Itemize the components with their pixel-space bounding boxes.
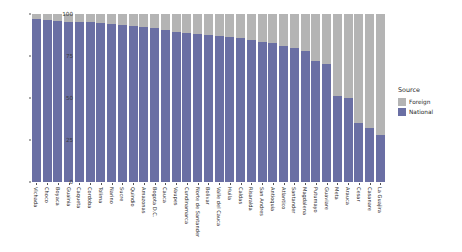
- x-axis-tick-label: Arauca: [345, 187, 351, 205]
- x-axis-tick: Valle del Cauca: [214, 183, 225, 249]
- x-axis-tick-label: Bogota D.C.: [152, 187, 158, 217]
- x-axis-tick-mark: [187, 183, 188, 185]
- x-axis-tick-label: Choco: [44, 187, 50, 203]
- x-axis-tick-mark: [273, 183, 274, 185]
- x-axis-tick-label: Sucre: [119, 187, 125, 201]
- bar-segment-national: [268, 43, 277, 182]
- x-axis-tick: Bogota D.C.: [149, 183, 160, 249]
- x-axis-tick-mark: [144, 183, 145, 185]
- bar-stack: [214, 14, 225, 182]
- bar-segment-national: [311, 61, 320, 182]
- bar-segment-national: [236, 38, 245, 182]
- bar-stack: [354, 14, 365, 182]
- bar-stack: [182, 14, 193, 182]
- x-axis-tick: Caldas: [235, 183, 246, 249]
- y-axis-tick-mark: [29, 14, 31, 15]
- x-axis-tick: San Andres: [257, 183, 268, 249]
- x-axis-tick: Bolivar: [203, 183, 214, 249]
- bar-stack: [235, 14, 246, 182]
- x-axis-tick-mark: [90, 183, 91, 185]
- plot-area: [31, 14, 386, 182]
- x-axis-tick-mark: [294, 183, 295, 185]
- bar-stack: [311, 14, 322, 182]
- x-axis-tick: Putumayo: [311, 183, 322, 249]
- bar-segment-national: [118, 25, 127, 182]
- x-axis-tick-label: Meta: [334, 187, 340, 200]
- bar-segment-foreign: [268, 14, 277, 43]
- legend-swatch-national: [398, 108, 406, 116]
- x-axis-tick-mark: [284, 183, 285, 185]
- x-axis-tick-label: Amazonas: [141, 187, 147, 213]
- bar-segment-national: [290, 48, 299, 182]
- y-axis-tick-mark: [29, 140, 31, 141]
- bar-group: [31, 14, 386, 182]
- x-axis-tick-label: Caldas: [238, 187, 244, 204]
- x-axis-tick-mark: [208, 183, 209, 185]
- bar-segment-national: [344, 98, 353, 182]
- bar-segment-national: [161, 30, 170, 182]
- bar-segment-national: [354, 123, 363, 182]
- x-axis-tick: Caqueta: [74, 183, 85, 249]
- bar-segment-national: [107, 24, 116, 182]
- bar-segment-foreign: [129, 14, 138, 26]
- x-axis-tick: Choco: [42, 183, 53, 249]
- bar-stack: [139, 14, 150, 182]
- x-axis-tick-mark: [219, 183, 220, 185]
- bar-segment-national: [225, 37, 234, 182]
- bar-stack: [332, 14, 343, 182]
- x-axis-labels: VichadaChocoBoyacaGuainiaCaquetaCordobaT…: [31, 183, 386, 249]
- x-axis-tick: Arauca: [343, 183, 354, 249]
- x-axis-tick-label: Huila: [227, 187, 233, 200]
- x-axis-tick: Quindio: [128, 183, 139, 249]
- legend-swatch-foreign: [398, 98, 406, 106]
- bar-segment-foreign: [311, 14, 320, 61]
- bar-segment-foreign: [86, 14, 95, 22]
- bar-segment-foreign: [236, 14, 245, 38]
- x-axis-tick: Boyaca: [53, 183, 64, 249]
- bar-segment-national: [322, 64, 331, 182]
- bar-segment-national: [139, 27, 148, 182]
- bar-stack: [278, 14, 289, 182]
- x-axis-tick-label: Cesar: [356, 187, 362, 202]
- bar-segment-national: [301, 51, 310, 182]
- x-axis-tick: Cauca: [160, 183, 171, 249]
- x-axis-tick-mark: [122, 183, 123, 185]
- legend-item[interactable]: National: [398, 108, 460, 116]
- bar-segment-national: [86, 22, 95, 182]
- bar-segment-foreign: [193, 14, 202, 34]
- legend-item[interactable]: Foreign: [398, 98, 460, 106]
- x-axis-tick-mark: [79, 183, 80, 185]
- bar-segment-foreign: [376, 14, 385, 135]
- bar-segment-national: [258, 42, 267, 182]
- bar-segment-national: [204, 35, 213, 182]
- bar-stack: [171, 14, 182, 182]
- x-axis-tick-mark: [133, 183, 134, 185]
- x-axis-tick: Risaralda: [246, 183, 257, 249]
- bar-segment-national: [365, 128, 374, 182]
- x-axis-tick: Cordoba: [85, 183, 96, 249]
- bar-segment-national: [96, 23, 105, 182]
- x-axis-tick: La Guajira: [375, 183, 386, 249]
- y-axis-tick-mark: [29, 182, 31, 183]
- x-axis-tick-mark: [337, 183, 338, 185]
- bar-stack: [74, 14, 85, 182]
- x-axis-tick-mark: [176, 183, 177, 185]
- chart-figure: VA Share (%) VichadaChocoBoyacaGuainiaCa…: [0, 0, 462, 252]
- x-axis-tick-label: Risaralda: [248, 187, 254, 211]
- bar-segment-foreign: [161, 14, 170, 30]
- x-axis-tick-label: Putumayo: [313, 187, 319, 213]
- y-axis-tick-label: 100: [47, 11, 73, 17]
- bar-segment-national: [53, 21, 62, 182]
- bar-stack: [246, 14, 257, 182]
- x-axis-tick: Norte de Santander: [192, 183, 203, 249]
- legend-label: Foreign: [409, 99, 430, 105]
- bar-segment-national: [215, 36, 224, 182]
- x-axis-tick-label: Caqueta: [76, 187, 82, 208]
- y-axis-tick-label: 75: [47, 53, 73, 59]
- x-axis-tick-label: Norte de Santander: [195, 187, 201, 237]
- x-axis-tick-label: Narino: [109, 187, 115, 204]
- bar-stack: [160, 14, 171, 182]
- x-axis-tick-mark: [241, 183, 242, 185]
- y-axis-tick-label: 25: [47, 137, 73, 143]
- x-axis-tick-mark: [327, 183, 328, 185]
